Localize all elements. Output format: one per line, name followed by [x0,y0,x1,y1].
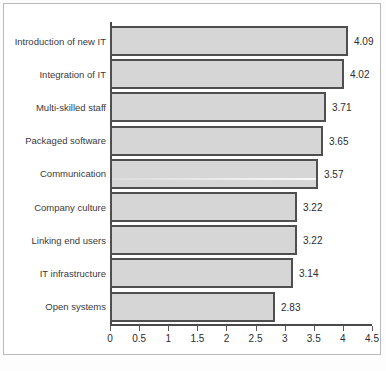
category-label-row: Open systems [10,292,106,322]
bar [110,126,323,156]
category-label: Linking end users [32,235,106,246]
category-label-row: Communication [10,159,106,189]
category-label-row: IT infrastructure [10,258,106,288]
category-label: Introduction of new IT [15,36,106,47]
bar [110,258,293,288]
x-tick-mark [197,326,198,331]
bar-row: 2.83 [110,292,372,322]
bar [110,92,326,122]
bar [110,225,297,255]
category-labels-column: Introduction of new ITIntegration of ITM… [10,22,106,322]
x-tick-label: 2.5 [249,333,263,344]
x-tick-mark [285,326,286,331]
bar-value-label: 4.02 [350,69,369,80]
bar-row: 3.57 [110,159,372,189]
category-label: Communication [40,168,106,179]
x-tick-mark [372,326,373,331]
x-tick-mark [314,326,315,331]
category-label-row: Integration of IT [10,59,106,89]
figure-container: Introduction of new ITIntegration of ITM… [0,0,386,371]
x-tick-label: 1 [165,333,171,344]
bar-value-label: 3.71 [332,102,351,113]
bar-row: 3.14 [110,258,372,288]
bar-value-label: 4.09 [354,36,373,47]
x-tick-mark [226,326,227,331]
x-tick-mark [139,326,140,331]
category-label-row: Packaged software [10,126,106,156]
plot-area: 4.094.023.713.653.573.223.223.142.8300.5… [110,22,372,322]
category-label: Packaged software [25,135,106,146]
category-label: Multi-skilled staff [36,102,106,113]
x-tick-label: 3.5 [307,333,321,344]
bar-value-label: 3.14 [299,268,318,279]
category-label: Company culture [34,202,106,213]
category-label-row: Company culture [10,192,106,222]
bar [110,26,348,56]
x-tick-label: 0.5 [132,333,146,344]
category-axis-line [110,324,372,326]
bar-value-label: 3.65 [329,135,348,146]
x-tick-mark [256,326,257,331]
x-tick-mark [168,326,169,331]
bar [110,59,344,89]
x-tick-label: 1.5 [190,333,204,344]
bar-row: 3.65 [110,126,372,156]
bar [110,159,318,189]
x-tick-label: 2 [224,333,230,344]
x-tick-label: 0 [107,333,113,344]
category-label-row: Linking end users [10,225,106,255]
bar-value-label: 3.57 [324,168,343,179]
category-label-row: Introduction of new IT [10,26,106,56]
category-label: IT infrastructure [40,268,106,279]
category-label-row: Multi-skilled staff [10,92,106,122]
bar-value-label: 3.22 [303,202,322,213]
category-label: Open systems [45,301,106,312]
bar-row: 4.02 [110,59,372,89]
bar-row: 3.22 [110,192,372,222]
category-label: Integration of IT [39,69,106,80]
bar-value-label: 3.22 [303,235,322,246]
x-tick-label: 4.5 [365,333,379,344]
x-tick-label: 4 [340,333,346,344]
bar-row: 3.71 [110,92,372,122]
bar-value-label: 2.83 [281,301,300,312]
bar-row: 3.22 [110,225,372,255]
x-tick-mark [110,326,111,331]
x-tick-label: 3 [282,333,288,344]
bar [110,292,275,322]
chart-frame: Introduction of new ITIntegration of ITM… [3,3,381,355]
x-tick-mark [343,326,344,331]
bar-row: 4.09 [110,26,372,56]
bar [110,192,297,222]
